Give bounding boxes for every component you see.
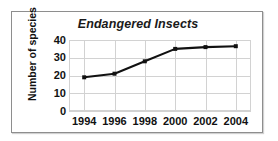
data-point-marker — [204, 45, 208, 49]
x-axis-tick-label: 2004 — [214, 115, 258, 127]
gridline-horizontal — [69, 111, 251, 112]
y-axis-tick-label: 10 — [40, 88, 66, 99]
data-point-marker — [82, 75, 86, 79]
chart-title: Endangered Insects — [12, 17, 264, 31]
chart-page: Endangered Insects Number of species 010… — [0, 0, 278, 141]
x-axis-tick-labels: 199419961998200020022004 — [69, 115, 251, 129]
data-point-marker — [113, 72, 117, 76]
plot-area — [69, 40, 251, 111]
data-point-marker — [173, 47, 177, 51]
series-line — [84, 46, 236, 77]
data-point-marker — [234, 44, 238, 48]
y-axis-title: Number of species — [26, 23, 38, 101]
line-series — [69, 40, 251, 111]
y-axis-tick-label: 30 — [40, 52, 66, 63]
y-axis-tick-labels: 010203040 — [38, 40, 66, 111]
chart-figure-frame: Endangered Insects Number of species 010… — [11, 11, 263, 133]
y-axis-tick-label: 40 — [40, 35, 66, 46]
data-point-marker — [143, 59, 147, 63]
y-axis-tick-label: 20 — [40, 70, 66, 81]
